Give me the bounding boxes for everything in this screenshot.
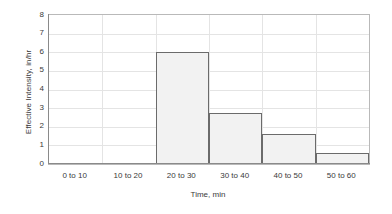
y-tick-label: 5 — [26, 65, 44, 74]
x-axis-title: Time, min — [48, 189, 368, 201]
y-tick-label: 8 — [26, 10, 44, 19]
bar-slot — [316, 15, 369, 164]
x-tick-label: 0 to 10 — [48, 170, 101, 182]
x-tick-label: 10 to 20 — [101, 170, 154, 182]
x-tick-label: 40 to 50 — [261, 170, 314, 182]
bar[interactable] — [156, 52, 209, 164]
x-axis-tick-labels: 0 to 10 10 to 20 20 to 30 30 to 40 40 to… — [48, 170, 368, 182]
bar-slot — [49, 15, 102, 164]
bar-slot — [209, 15, 262, 164]
chart-figure: Effective Intensity, in/hr 0 1 2 3 4 5 6… — [0, 0, 392, 214]
x-tick-label: 30 to 40 — [208, 170, 261, 182]
bar[interactable] — [209, 113, 262, 164]
x-tick-label: 20 to 30 — [155, 170, 208, 182]
y-tick-label: 2 — [26, 121, 44, 130]
bar-slot — [156, 15, 209, 164]
x-axis-line — [48, 163, 370, 164]
y-tick-label: 1 — [26, 140, 44, 149]
y-axis-tick-labels: 0 1 2 3 4 5 6 7 8 — [26, 8, 44, 163]
y-tick-label: 3 — [26, 103, 44, 112]
bar[interactable] — [262, 134, 315, 164]
bars-layer — [49, 15, 369, 164]
bar-slot — [102, 15, 155, 164]
y-tick-label: 4 — [26, 84, 44, 93]
x-tick-label: 50 to 60 — [315, 170, 368, 182]
y-tick-label: 0 — [26, 159, 44, 168]
y-tick-label: 7 — [26, 28, 44, 37]
y-tick-label: 6 — [26, 47, 44, 56]
y-axis-line — [48, 14, 49, 164]
plot-area — [48, 14, 370, 165]
bar-slot — [262, 15, 315, 164]
